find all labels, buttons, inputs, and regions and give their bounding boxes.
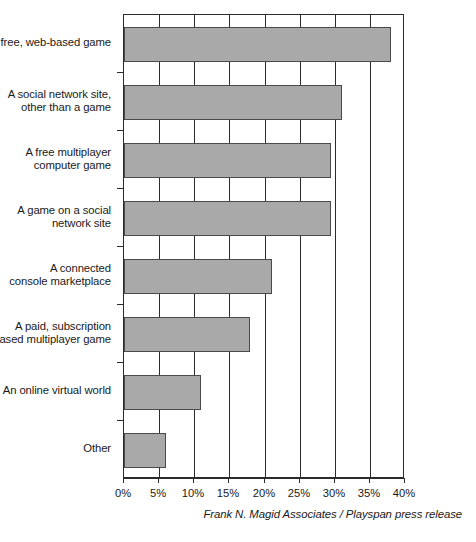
x-axis-tick	[404, 478, 405, 483]
category-label-line: console marketplace	[0, 275, 111, 288]
category-tick	[117, 420, 123, 421]
category-label-line: Other	[0, 442, 111, 455]
category-tick	[117, 362, 123, 363]
x-axis-tick-label: 35%	[358, 486, 380, 500]
x-axis-tick-label: 15%	[217, 486, 239, 500]
x-axis-tick	[299, 478, 300, 483]
x-axis-tick-label: 30%	[323, 486, 345, 500]
category-label-line: A social network site,	[0, 88, 111, 101]
x-axis-tick	[369, 478, 370, 483]
bar	[124, 201, 331, 236]
x-axis-tick-label: 40%	[393, 486, 415, 500]
category-label: A game on a socialnetwork site	[0, 204, 111, 231]
x-axis-tick	[158, 478, 159, 483]
category-label-line: based multiplayer game	[0, 333, 111, 346]
bar	[124, 27, 391, 62]
bar	[124, 85, 342, 120]
bar	[124, 317, 250, 352]
bar-series	[124, 15, 403, 477]
category-label: Other	[0, 442, 111, 455]
bar	[124, 375, 201, 410]
x-axis-tick	[264, 478, 265, 483]
category-axis-ticks	[117, 14, 123, 478]
bar-chart: A free, web-based gameA social network s…	[0, 0, 476, 542]
category-label-line: other than a game	[0, 101, 111, 114]
x-axis-tick	[123, 478, 124, 483]
category-label: A paid, subscriptionbased multiplayer ga…	[0, 320, 111, 347]
plot-area	[123, 14, 404, 478]
bar	[124, 433, 166, 468]
category-label-line: A game on a social	[0, 204, 111, 217]
bar	[124, 143, 331, 178]
x-axis-tick	[334, 478, 335, 483]
category-label: A free multiplayercomputer game	[0, 146, 111, 173]
category-label-line: A connected	[0, 262, 111, 275]
category-label-line: A free, web-based game	[0, 36, 111, 49]
x-axis-tick-label: 20%	[253, 486, 275, 500]
category-label-line: network site	[0, 217, 111, 230]
category-label-line: computer game	[0, 159, 111, 172]
x-axis-tick-label: 25%	[288, 486, 310, 500]
x-axis-tick	[228, 478, 229, 483]
source-attribution: Frank N. Magid Associates / Playspan pre…	[0, 508, 462, 520]
category-label-line: An online virtual world	[0, 384, 111, 397]
category-axis-labels: A free, web-based gameA social network s…	[0, 14, 117, 478]
category-tick	[117, 246, 123, 247]
x-axis-tick-label: 10%	[182, 486, 204, 500]
category-label: A connectedconsole marketplace	[0, 262, 111, 289]
x-axis-tick-label: 5%	[150, 486, 166, 500]
category-label-line: A free multiplayer	[0, 146, 111, 159]
category-tick	[117, 188, 123, 189]
category-label: An online virtual world	[0, 384, 111, 397]
category-label: A free, web-based game	[0, 36, 111, 49]
x-axis-ticks	[123, 478, 404, 484]
category-tick	[117, 130, 123, 131]
category-tick	[117, 72, 123, 73]
x-axis-tick	[193, 478, 194, 483]
category-label-line: A paid, subscription	[0, 320, 111, 333]
category-label: A social network site,other than a game	[0, 88, 111, 115]
x-axis-tick-label: 0%	[115, 486, 131, 500]
x-axis-tick-labels: 0%5%10%15%20%25%30%35%40%	[123, 486, 404, 502]
category-tick	[117, 304, 123, 305]
bar	[124, 259, 272, 294]
